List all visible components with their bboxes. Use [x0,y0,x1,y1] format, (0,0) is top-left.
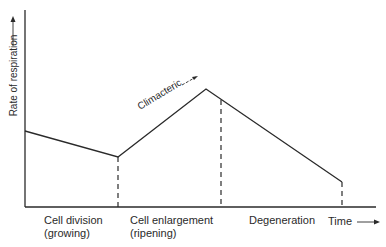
phase-label-line1: Cell division [44,214,103,227]
x-axis-label: Time [328,215,352,228]
respiration-curve [25,89,342,182]
phase-label-line2: (growing) [44,227,103,240]
phase-label-line1: Degeneration [249,214,315,227]
climacteric-arrow-icon [182,76,198,85]
respiration-diagram: Climacteric [0,0,386,247]
time-arrow-icon [357,220,380,225]
phase-label-cell-enlargement: Cell enlargement (ripening) [130,214,213,240]
phase-label-line1: Cell enlargement [130,214,213,227]
climacteric-label: Climacteric [135,77,183,112]
phase-label-cell-division: Cell division (growing) [44,214,103,240]
y-axis-label: Rate of respiration [8,11,19,141]
phase-label-line2: (ripening) [130,227,213,240]
phase-label-degeneration: Degeneration [249,214,315,227]
